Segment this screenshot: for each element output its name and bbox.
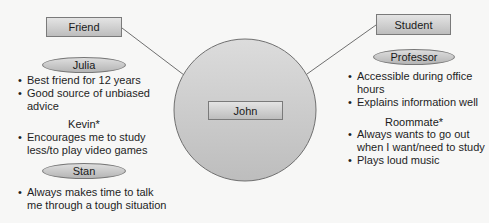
stan-notes: Always makes time to talk me through a t… bbox=[18, 186, 168, 212]
note-item: Encourages me to study less/to play vide… bbox=[18, 131, 168, 157]
connector-student bbox=[307, 25, 376, 74]
category-label: Friend bbox=[68, 21, 99, 33]
person-stan: Stan bbox=[42, 163, 126, 179]
note-item: Good source of unbiased advice bbox=[18, 87, 168, 113]
person-name: Roommate* bbox=[385, 116, 443, 128]
note-item: Explains information well bbox=[348, 96, 488, 109]
professor-notes: Accessible during office hours Explains … bbox=[348, 70, 488, 109]
person-name: Stan bbox=[73, 165, 96, 177]
category-friend: Friend bbox=[46, 17, 122, 37]
connector-friend bbox=[122, 28, 184, 75]
person-julia: Julia bbox=[42, 57, 126, 73]
person-roommate: Roommate* bbox=[373, 115, 455, 128]
person-kevin: Kevin* bbox=[42, 117, 126, 130]
category-student: Student bbox=[376, 14, 451, 35]
note-item: Accessible during office hours bbox=[348, 70, 488, 96]
roommate-notes: Always wants to go out when I want/need … bbox=[348, 128, 488, 167]
note-item: Plays loud music bbox=[348, 154, 488, 167]
category-label: Student bbox=[395, 19, 433, 31]
note-item: Best friend for 12 years bbox=[18, 74, 168, 87]
person-name: Professor bbox=[390, 51, 437, 63]
julia-notes: Best friend for 12 years Good source of … bbox=[18, 74, 168, 113]
kevin-notes: Encourages me to study less/to play vide… bbox=[18, 131, 168, 157]
center-node-label: John bbox=[234, 105, 258, 117]
person-name: Julia bbox=[73, 59, 96, 71]
person-name: Kevin* bbox=[68, 118, 100, 130]
note-item: Always makes time to talk me through a t… bbox=[18, 186, 168, 212]
person-professor: Professor bbox=[373, 49, 455, 65]
center-node-john: John bbox=[208, 101, 283, 120]
note-item: Always wants to go out when I want/need … bbox=[348, 128, 488, 154]
